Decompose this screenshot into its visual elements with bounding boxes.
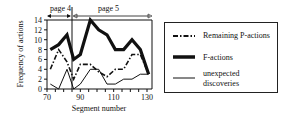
series-f-actions xyxy=(50,20,148,74)
series-unexpected-discoveries xyxy=(50,69,148,89)
y-tick-label: 12 xyxy=(34,26,42,35)
y-axis-label: Frequency of actions xyxy=(16,20,25,87)
x-tick-label: 130 xyxy=(141,93,153,102)
y-tick-label: 10 xyxy=(34,36,42,45)
legend-label-unexpected-2: discoveries xyxy=(203,79,239,88)
y-tick-label: 2 xyxy=(38,75,42,84)
y-ticks: 02468101214 xyxy=(34,16,47,94)
x-ticks: 7090110130 xyxy=(43,89,153,102)
x-tick-label: 90 xyxy=(76,93,84,102)
page4-label: page 4 xyxy=(50,4,71,13)
series-lines xyxy=(50,20,148,89)
legend-label-unexpected-1: unexpected xyxy=(203,69,239,78)
page-annotations: page 4 page 5 xyxy=(47,4,152,18)
x-tick-label: 70 xyxy=(43,93,51,102)
y-tick-label: 0 xyxy=(38,85,42,94)
legend: Remaining P-actions F-actions unexpected… xyxy=(164,22,278,93)
x-tick-label: 110 xyxy=(108,93,120,102)
y-tick-label: 4 xyxy=(38,65,42,74)
y-tick-label: 6 xyxy=(38,55,42,64)
y-tick-label: 8 xyxy=(38,46,42,55)
y-tick-label: 14 xyxy=(34,16,42,25)
page5-label: page 5 xyxy=(98,4,119,13)
legend-label-remaining: Remaining P-actions xyxy=(203,31,270,40)
legend-label-factions: F-actions xyxy=(203,53,233,62)
x-axis-label: Segment number xyxy=(72,104,127,113)
